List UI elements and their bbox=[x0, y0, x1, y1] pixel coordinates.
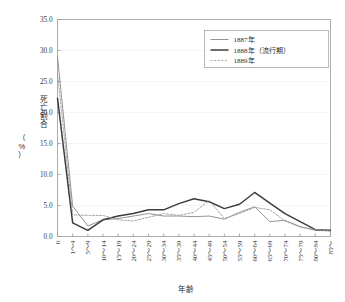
legend-label-2: 1889年 bbox=[234, 56, 255, 65]
chart-legend: 1887年1888年（流行期）1889年 bbox=[205, 31, 329, 68]
x-tick-label: 50～54 bbox=[221, 240, 229, 262]
mortality-by-age-line-chart: 0.05.010.015.020.025.030.035.0 01～45～910… bbox=[0, 0, 345, 302]
x-tick-label: 25～29 bbox=[145, 240, 153, 262]
x-tick-label: 85～ bbox=[327, 241, 335, 255]
x-tick-label: 10～14 bbox=[100, 240, 108, 262]
x-tick-label: 70～74 bbox=[282, 240, 290, 262]
y-tick-label: 10.0 bbox=[40, 171, 53, 179]
x-tick-label: 60～64 bbox=[251, 240, 259, 262]
x-tick-label: 30～34 bbox=[160, 240, 168, 262]
chart-container: 0.05.010.015.020.025.030.035.0 01～45～910… bbox=[0, 0, 345, 302]
y-axis-title-line2: （%） bbox=[18, 134, 26, 160]
legend-label-1: 1888年（流行期） bbox=[234, 46, 290, 55]
x-tick-label: 40～44 bbox=[191, 240, 199, 262]
x-tick-label: 5～9 bbox=[84, 240, 92, 255]
y-tick-label: 15.0 bbox=[40, 140, 53, 148]
y-tick-label: 25.0 bbox=[40, 78, 53, 86]
x-tick-label: 15～19 bbox=[115, 240, 123, 262]
x-tick-label: 0 bbox=[54, 240, 62, 244]
legend-label-0: 1887年 bbox=[234, 35, 255, 44]
y-tick-label: 5.0 bbox=[44, 202, 53, 210]
y-tick-label: 30.0 bbox=[40, 47, 53, 55]
x-tick-label: 35～39 bbox=[175, 240, 183, 262]
y-tick-label: 35.0 bbox=[40, 16, 53, 24]
x-tick-label: 45～49 bbox=[206, 240, 214, 262]
y-tick-label: 0.0 bbox=[44, 233, 53, 241]
y-axis-title-line1: 死亡割合 bbox=[40, 95, 48, 129]
x-tick-label: 75～79 bbox=[297, 240, 305, 262]
x-tick-label: 1～4 bbox=[69, 240, 77, 255]
x-axis-title: 年齢 bbox=[178, 284, 194, 294]
x-tick-label: 65～69 bbox=[266, 240, 274, 262]
x-tick-label: 80～84 bbox=[312, 240, 320, 262]
x-tick-label: 20～24 bbox=[130, 240, 138, 262]
x-tick-label: 55～59 bbox=[236, 240, 244, 262]
